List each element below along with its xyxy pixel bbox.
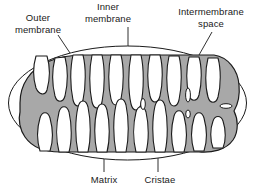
label-outer-membrane-line1: Outer: [26, 12, 50, 23]
crista-l7: [153, 100, 168, 152]
crista-l5: [114, 99, 129, 152]
label-matrix-line1: Matrix: [91, 174, 117, 185]
crista-l8: [172, 111, 187, 152]
inner-membrane-and-matrix: [19, 55, 239, 152]
crista-vesicle-3: [220, 104, 232, 109]
crista-u5: [109, 55, 124, 105]
crista-u2: [53, 57, 68, 101]
crista-l3: [76, 101, 91, 152]
label-inner-membrane: Inner membrane: [72, 1, 144, 24]
label-inner-membrane-line2: membrane: [72, 13, 144, 25]
leader-intermembrane-space: [199, 32, 212, 55]
crista-u10: [206, 58, 221, 102]
crista-vesicle-4: [141, 99, 146, 110]
label-inner-membrane-line1: Inner: [97, 1, 119, 12]
crista-u7: [148, 55, 163, 102]
crista-l1: [38, 113, 53, 151]
label-intermembrane-space-line1: Intermembrane: [178, 6, 244, 17]
crista-l9: [192, 113, 207, 151]
mitochondrion-diagram-figure: Outer membrane Inner membrane Intermembr…: [0, 0, 255, 188]
crista-u4: [90, 55, 105, 108]
label-outer-membrane: Outer membrane: [2, 12, 74, 35]
crista-l6: [134, 107, 149, 152]
crista-l10: [211, 117, 226, 149]
crista-l2: [57, 107, 72, 152]
label-matrix: Matrix: [72, 174, 136, 186]
crista-u8: [167, 56, 182, 106]
label-cristae: Cristae: [128, 174, 192, 186]
crista-u3: [71, 55, 86, 106]
label-intermembrane-space-line2: space: [168, 18, 254, 30]
crista-vesicle-1: [186, 88, 191, 102]
crista-u1: [34, 56, 50, 94]
label-outer-membrane-line2: membrane: [2, 24, 74, 36]
crista-l4: [95, 104, 110, 152]
label-intermembrane-space: Intermembrane space: [168, 6, 254, 29]
label-cristae-line1: Cristae: [145, 174, 176, 185]
crista-vesicle-2: [186, 110, 191, 118]
